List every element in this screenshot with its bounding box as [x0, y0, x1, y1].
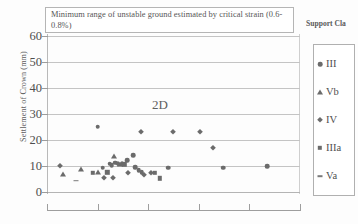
- data-point-vb: [78, 166, 84, 171]
- diamond-icon: [317, 117, 323, 123]
- data-point-iv: [138, 129, 144, 135]
- data-point-iv: [57, 163, 63, 169]
- legend-marker-dash-icon: [314, 170, 326, 182]
- y-tick-label: 50: [16, 56, 42, 69]
- gridline: [47, 140, 300, 141]
- gridline: [47, 62, 300, 63]
- gridline: [47, 114, 300, 115]
- x-tick-mark: [300, 204, 301, 211]
- y-tick-label: 0: [16, 186, 42, 199]
- gridline: [47, 88, 300, 89]
- data-point-iv: [125, 169, 131, 175]
- y-tick-label: 10: [16, 160, 42, 173]
- data-point-vb: [95, 170, 101, 175]
- triangle-icon: [317, 90, 323, 95]
- unstable-ground-annotation: Minimum range of unstable ground estimat…: [45, 7, 294, 33]
- data-point-iiia: [90, 170, 94, 174]
- y-tick-mark: [42, 62, 48, 63]
- y-tick-mark: [42, 88, 48, 89]
- data-point-iiia: [153, 171, 157, 175]
- data-point-iv: [110, 175, 116, 181]
- legend-label: IIIa: [326, 143, 341, 154]
- y-tick-mark: [42, 114, 48, 115]
- square-icon: [318, 146, 322, 150]
- legend-label: IV: [326, 115, 337, 126]
- scatter-chart-figure: Settlement of Crown (mm) 0102030405060 M…: [0, 0, 358, 224]
- dash-icon: [318, 175, 323, 177]
- data-point-iii: [166, 166, 171, 171]
- gridline: [47, 192, 300, 193]
- data-point-vb: [111, 153, 117, 158]
- y-tick-label: 30: [16, 108, 42, 121]
- y-tick-mark: [42, 192, 48, 193]
- y-tick-mark: [42, 166, 48, 167]
- data-point-iii: [221, 166, 226, 171]
- legend-title: Support Cla: [306, 19, 346, 28]
- gridline: [47, 36, 300, 37]
- data-point-iiia: [105, 170, 109, 174]
- data-point-iv: [170, 129, 176, 135]
- plot-area: [47, 36, 300, 192]
- x-tick-mark: [148, 204, 149, 211]
- legend-marker-triangle-icon: [314, 86, 326, 98]
- data-point-iv: [210, 145, 216, 151]
- y-tick-mark: [42, 140, 48, 141]
- y-tick-label: 40: [16, 82, 42, 95]
- data-point-iii: [96, 124, 101, 129]
- y-axis-tick-labels: 0102030405060: [8, 0, 42, 224]
- data-point-iv: [197, 129, 203, 135]
- x-tick-mark: [249, 204, 250, 211]
- tunnel-diameter-label: 2D: [152, 97, 168, 113]
- legend-entry-va[interactable]: Va: [314, 169, 356, 183]
- circle-icon: [318, 62, 323, 67]
- legend-label: Vb: [326, 87, 339, 98]
- data-point-iiia: [122, 162, 126, 166]
- x-tick-mark: [98, 204, 99, 211]
- legend-entry-iiia[interactable]: IIIa: [314, 141, 356, 155]
- legend-entry-iv[interactable]: IV: [314, 113, 356, 127]
- legend-marker-circle-icon: [314, 58, 326, 70]
- gridline: [47, 166, 300, 167]
- y-tick-label: 20: [16, 134, 42, 147]
- legend-label: Va: [326, 171, 337, 182]
- legend-entry-iii[interactable]: III: [314, 57, 356, 71]
- data-point-vb: [60, 171, 66, 176]
- data-point-iv: [141, 172, 147, 178]
- x-axis-line: [47, 210, 300, 211]
- legend-entry-vb[interactable]: Vb: [314, 85, 356, 99]
- data-point-iii: [265, 164, 270, 169]
- y-tick-mark: [42, 36, 48, 37]
- legend-marker-square-icon: [314, 142, 326, 154]
- data-point-iiia: [158, 176, 162, 180]
- y-tick-label: 60: [16, 30, 42, 43]
- x-tick-mark: [199, 204, 200, 211]
- legend-label: III: [326, 59, 337, 70]
- data-point-iv: [101, 175, 107, 181]
- data-point-va: [73, 180, 78, 182]
- x-tick-mark: [47, 204, 48, 211]
- legend-marker-diamond-icon: [314, 114, 326, 126]
- legend-box: IIIVbIVIIIaVa: [313, 44, 355, 196]
- data-point-iii: [131, 153, 136, 158]
